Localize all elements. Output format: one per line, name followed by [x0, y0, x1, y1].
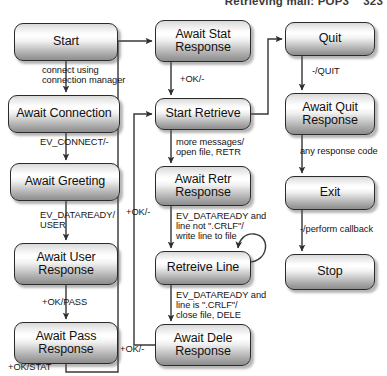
state-start[interactable]: Start	[14, 23, 118, 61]
label-more-messages-open-file-retr: more messages/ open file, RETR	[176, 137, 244, 157]
label-any-response-code: any response code	[300, 146, 378, 156]
state-machine-diagram: Retrieving mail: POP3323	[0, 0, 387, 376]
state-await-quit-response[interactable]: Await Quit Response	[285, 93, 375, 135]
wire-await-dele-response-to-start-retrieve	[134, 114, 155, 345]
label-ev-dataready-user: EV_DATAREADY/ USER	[40, 210, 115, 230]
state-await-dele-response[interactable]: Await Dele Response	[155, 324, 251, 366]
label-connect-using-connection-manager: connect using connection manager	[42, 65, 125, 85]
state-await-stat-response[interactable]: Await Stat Response	[155, 20, 251, 62]
state-await-pass-response[interactable]: Await Pass Response	[14, 322, 118, 364]
label-ok-dele-to-retrieve: +OK/-	[120, 344, 144, 354]
state-retreive-line[interactable]: Retreive Line	[155, 251, 251, 285]
state-start-retrieve[interactable]: Start Retrieve	[155, 98, 251, 130]
label-ev-dataready-line-not-crlf: EV_DATAREADY and line not ".CRLF"/ write…	[176, 211, 266, 242]
label-quit-command: -/QUIT	[312, 66, 340, 76]
wire-start-retrieve-to-quit	[251, 39, 282, 114]
label-ok-pass: +OK/PASS	[42, 297, 87, 307]
state-await-connection[interactable]: Await Connection	[8, 95, 120, 133]
state-await-retr-response[interactable]: Await Retr Response	[155, 166, 251, 206]
label-ev-connect: EV_CONNECT/-	[40, 137, 109, 147]
state-quit[interactable]: Quit	[285, 22, 375, 56]
label-ok-retrieve-to-quit: +OK/-	[126, 207, 150, 217]
state-await-user-response[interactable]: Await User Response	[14, 243, 118, 285]
state-await-greeting[interactable]: Await Greeting	[10, 163, 120, 201]
state-exit[interactable]: Exit	[285, 176, 375, 210]
label-ok-stat: +OK/STAT	[8, 362, 51, 372]
label-perform-callback: -/perform callback	[300, 224, 373, 234]
state-stop[interactable]: Stop	[285, 254, 375, 290]
label-ok-stat-to-retrieve: +OK/-	[180, 74, 204, 84]
label-ev-dataready-line-is-crlf: EV_DATAREADY and line is ".CRLF"/ close …	[176, 290, 266, 321]
